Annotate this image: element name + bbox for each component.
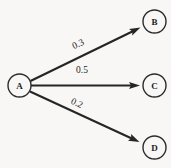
- edges-layer: [30, 28, 141, 143]
- edge-weights-layer: 0.3 0.5 0.2: [70, 37, 89, 110]
- node-label-d: D: [151, 143, 158, 153]
- edge-weight-a-b: 0.3: [70, 37, 85, 51]
- graph-svg: 0.3 0.5 0.2 A B C D: [0, 0, 171, 168]
- node-label-a: A: [16, 81, 23, 91]
- edge-a-to-c: [31, 82, 140, 89]
- node-label-c: C: [151, 81, 158, 91]
- node-c[interactable]: C: [143, 74, 166, 97]
- edge-a-to-d: [30, 92, 140, 143]
- edge-weight-a-d: 0.2: [70, 96, 85, 110]
- node-d[interactable]: D: [143, 136, 166, 159]
- edge-weight-a-c: 0.5: [76, 65, 88, 75]
- node-label-b: B: [151, 17, 157, 27]
- node-a[interactable]: A: [8, 74, 31, 97]
- node-b[interactable]: B: [143, 10, 166, 33]
- graph-diagram-canvas: 0.3 0.5 0.2 A B C D: [0, 0, 171, 168]
